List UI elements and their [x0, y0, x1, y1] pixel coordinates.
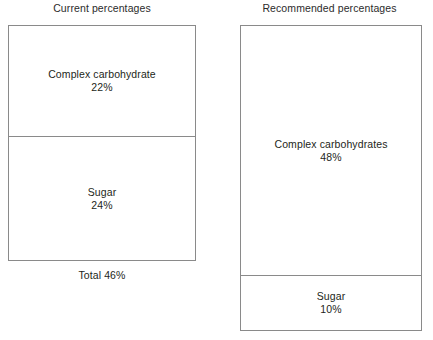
- stacked-box-current: Complex carbohydrate 22% Sugar 24%: [8, 25, 196, 261]
- stacked-box-recommended: Complex carbohydrates 48% Sugar 10%: [240, 25, 422, 331]
- panel-recommended-title: Recommended percentages: [226, 2, 433, 14]
- segment-value: 48%: [320, 151, 341, 164]
- panel-current-total-caption: Total 46%: [0, 269, 204, 281]
- segment-value: 10%: [320, 303, 341, 316]
- segment-label: Complex carbohydrate: [48, 68, 156, 81]
- segment-label: Sugar: [88, 186, 117, 199]
- segment-label: Complex carbohydrates: [275, 138, 388, 151]
- segment-value: 24%: [91, 199, 112, 212]
- segment-recommended-sugar: Sugar 10%: [241, 275, 421, 330]
- segment-current-complex-carbohydrate: Complex carbohydrate 22%: [9, 26, 195, 136]
- segment-current-sugar: Sugar 24%: [9, 136, 195, 260]
- segment-recommended-complex-carbohydrates: Complex carbohydrates 48%: [241, 26, 421, 275]
- panel-current-title: Current percentages: [0, 2, 204, 14]
- comparison-figure: Current percentages Complex carbohydrate…: [0, 0, 433, 340]
- panel-current-percentages: Current percentages Complex carbohydrate…: [0, 0, 204, 340]
- panel-recommended-percentages: Recommended percentages Complex carbohyd…: [226, 0, 433, 340]
- segment-value: 22%: [91, 81, 112, 94]
- segment-label: Sugar: [317, 290, 346, 303]
